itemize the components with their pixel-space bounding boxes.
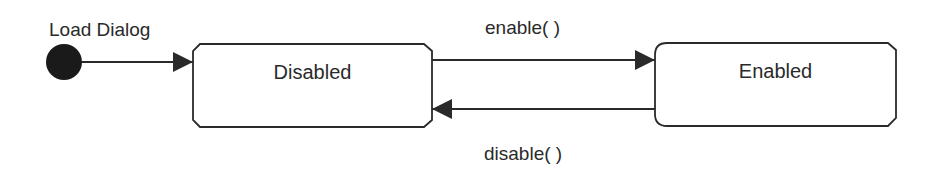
initial-state-dot: [46, 44, 82, 80]
initial-state-label: Load Dialog: [49, 19, 150, 41]
state-box-enabled[interactable]: [655, 43, 896, 126]
state-label-disabled: Disabled: [193, 61, 432, 84]
state-label-enabled: Enabled: [655, 60, 896, 83]
transition-label-disable: disable( ): [484, 143, 562, 165]
state-box-disabled[interactable]: [193, 44, 432, 127]
transition-label-enable: enable( ): [485, 17, 560, 39]
